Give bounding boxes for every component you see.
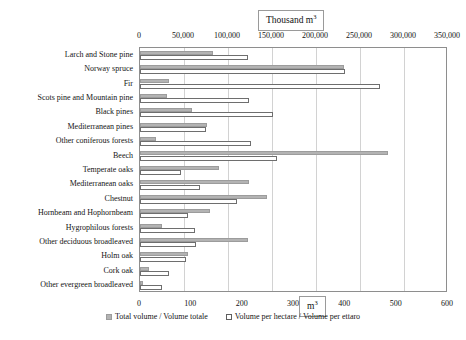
bar-volume-per-hectare[interactable]	[140, 156, 277, 161]
bar-volume-per-hectare[interactable]	[140, 112, 273, 117]
legend-label: Total volume / Volume totale	[115, 312, 208, 321]
axis-tick-label: 300,000	[390, 30, 416, 42]
bar-group	[140, 91, 446, 105]
axis-tick-label: 50,000	[172, 30, 194, 42]
axis-tick-label: 350,000	[434, 30, 460, 42]
legend-item[interactable]: Total volume / Volume totale	[106, 312, 208, 321]
category-label: Other evergreen broadleaved	[0, 280, 136, 289]
bar-group	[140, 207, 446, 221]
category-label: Chestnut	[0, 194, 136, 203]
axis-tick-label: 150,000	[258, 30, 284, 42]
legend-label: Volume per hectare / Volume per ettaro	[235, 312, 360, 321]
category-label: Larch and Stone pine	[0, 50, 136, 59]
bar-group	[140, 178, 446, 192]
bar-volume-per-hectare[interactable]	[140, 271, 169, 276]
category-label: Hygrophilous forests	[0, 223, 136, 232]
axis-tick-label: 400	[338, 298, 350, 310]
forest-volume-bar-chart: Thousand m3 050,000100,000150,000200,000…	[0, 0, 466, 340]
axis-tick-label: 100	[184, 298, 196, 310]
category-label: Other coniferous forests	[0, 136, 136, 145]
bar-group	[140, 221, 446, 235]
top-axis-unit-badge: Thousand m3	[258, 10, 324, 31]
bar-volume-per-hectare[interactable]	[140, 141, 251, 146]
bar-volume-per-hectare[interactable]	[140, 84, 380, 89]
bar-group	[140, 235, 446, 249]
category-label: Norway spruce	[0, 64, 136, 73]
bottom-axis-unit-exponent: 3	[314, 299, 317, 306]
legend-swatch-icon	[226, 314, 232, 320]
category-label: Holm oak	[0, 251, 136, 260]
bar-volume-per-hectare[interactable]	[140, 55, 248, 60]
bar-group	[140, 134, 446, 148]
axis-tick-label: 500	[390, 298, 402, 310]
legend-swatch-icon	[106, 314, 112, 320]
axis-tick-label: 200	[236, 298, 248, 310]
bar-volume-per-hectare[interactable]	[140, 213, 188, 218]
category-label: Temperate oaks	[0, 165, 136, 174]
bar-volume-per-hectare[interactable]	[140, 242, 196, 247]
category-label: Hornbeam and Hophornbeam	[0, 208, 136, 217]
bar-group	[140, 163, 446, 177]
axis-tick-label: 600	[441, 298, 453, 310]
category-label: Mediterranean pines	[0, 122, 136, 131]
bar-volume-per-hectare[interactable]	[140, 69, 345, 74]
bar-volume-per-hectare[interactable]	[140, 199, 237, 204]
bar-volume-per-hectare[interactable]	[140, 228, 195, 233]
bar-group	[140, 149, 446, 163]
bar-group	[140, 279, 446, 293]
bar-volume-per-hectare[interactable]	[140, 285, 162, 290]
top-axis-unit-label: Thousand m	[266, 15, 313, 25]
category-label: Black pines	[0, 107, 136, 116]
axis-tick-label: 0	[137, 298, 141, 310]
bar-group	[140, 62, 446, 76]
bar-group	[140, 264, 446, 278]
chart-legend: Total volume / Volume totaleVolume per h…	[0, 312, 466, 321]
bar-group	[140, 192, 446, 206]
bar-volume-per-hectare[interactable]	[140, 257, 186, 262]
category-label: Mediterranean oaks	[0, 179, 136, 188]
bar-group	[140, 120, 446, 134]
axis-tick-label: 300	[287, 298, 299, 310]
axis-tick-label: 100,000	[214, 30, 240, 42]
top-axis-unit-exponent: 3	[313, 13, 316, 20]
bar-group	[140, 250, 446, 264]
legend-item[interactable]: Volume per hectare / Volume per ettaro	[226, 312, 360, 321]
plot-area	[139, 47, 447, 292]
bar-group	[140, 48, 446, 62]
category-label: Fir	[0, 79, 136, 88]
category-label: Beech	[0, 151, 136, 160]
axis-tick-label: 0	[137, 30, 141, 42]
category-label: Scots pine and Mountain pine	[0, 93, 136, 102]
bar-group	[140, 77, 446, 91]
bar-volume-per-hectare[interactable]	[140, 127, 206, 132]
bar-volume-per-hectare[interactable]	[140, 185, 200, 190]
bar-volume-per-hectare[interactable]	[140, 98, 249, 103]
bar-group	[140, 106, 446, 120]
axis-tick-label: 200,000	[302, 30, 328, 42]
category-label: Cork oak	[0, 266, 136, 275]
category-label: Other deciduous broadleaved	[0, 237, 136, 246]
bottom-axis-tick-labels: 0100200300400500600	[0, 298, 466, 310]
axis-tick-label: 250,000	[346, 30, 372, 42]
category-axis-labels: Larch and Stone pineNorway spruceFirScot…	[0, 47, 136, 292]
top-axis-tick-labels: 050,000100,000150,000200,000250,000300,0…	[0, 30, 466, 42]
bar-volume-per-hectare[interactable]	[140, 170, 181, 175]
